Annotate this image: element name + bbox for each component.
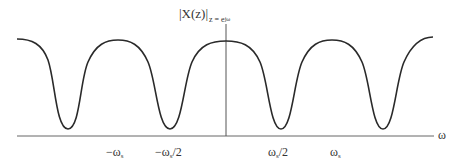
x-axis-label: ω: [438, 129, 446, 141]
y-axis-label-subscript: z = ejω: [209, 15, 230, 24]
y-axis-label-main: |X(z)|: [179, 6, 208, 21]
x-tick-neg-half-ws: −ωs/2: [155, 146, 182, 160]
y-axis-label: |X(z)|z = ejω: [179, 6, 230, 22]
magnitude-response-plot: [0, 0, 459, 161]
x-tick-ws: ωs: [330, 146, 341, 160]
x-tick-half-ws: ωs/2: [268, 146, 288, 160]
x-tick-neg-ws: −ωs: [106, 146, 123, 160]
magnitude-curve: [17, 37, 433, 129]
